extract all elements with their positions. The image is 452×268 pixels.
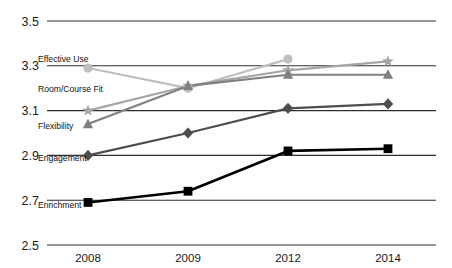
x-tick-label-2009: 2009 xyxy=(175,252,201,264)
chart-background xyxy=(0,0,452,268)
data-point-enrichment xyxy=(84,198,93,207)
chart-canvas: 2.52.72.93.13.33.5 2008200920122014 Effe… xyxy=(0,0,452,268)
y-tick-label-2.9: 2.9 xyxy=(22,149,39,163)
y-tick-label-3.5: 3.5 xyxy=(22,15,39,29)
y-tick-label-2.7: 2.7 xyxy=(22,194,39,208)
series-label-room-course-fit: Room/Course Fit xyxy=(38,84,104,94)
x-tick-label-2012: 2012 xyxy=(275,252,301,264)
series-label-engagement: Engagement xyxy=(38,153,87,163)
data-point-effective-use xyxy=(283,54,292,63)
x-tick-label-2014: 2014 xyxy=(375,252,401,264)
y-tick-label-3.1: 3.1 xyxy=(22,104,39,118)
x-tick-label-2008: 2008 xyxy=(75,252,101,264)
data-point-effective-use xyxy=(83,63,92,72)
y-tick-label-2.5: 2.5 xyxy=(22,239,39,253)
data-point-enrichment xyxy=(384,144,393,153)
series-label-flexibility: Flexibility xyxy=(38,121,74,131)
line-chart: 2.52.72.93.13.33.5 2008200920122014 Effe… xyxy=(0,0,452,268)
data-point-enrichment xyxy=(184,187,193,196)
series-label-effective-use: Effective Use xyxy=(38,54,89,64)
y-tick-label-3.3: 3.3 xyxy=(22,59,39,73)
data-point-enrichment xyxy=(284,147,293,156)
series-label-enrichment: Enrichment xyxy=(38,200,82,210)
